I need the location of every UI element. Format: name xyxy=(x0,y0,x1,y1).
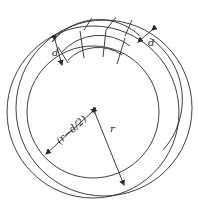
front-inner-circle xyxy=(27,46,159,178)
front-outer-circle xyxy=(7,26,179,198)
outer-radius-label: r xyxy=(110,123,116,134)
inner-radius-label: (r−d/2) xyxy=(54,113,89,146)
hatch-line xyxy=(84,18,92,30)
d-left-label: d xyxy=(52,47,58,58)
segment-divider xyxy=(103,30,106,57)
d-right-label: d xyxy=(148,37,154,48)
segment-divider xyxy=(80,31,84,58)
ring-drawing: d d (r−d/2) r xyxy=(0,0,198,209)
ring-diagram: d d (r−d/2) r xyxy=(0,0,198,209)
